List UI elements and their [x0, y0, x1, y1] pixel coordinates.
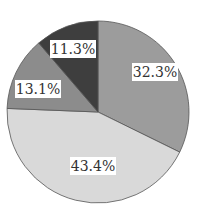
svg-text:43.4%: 43.4% — [71, 158, 115, 174]
slice-label: 11.3% — [50, 40, 96, 58]
slice-label: 43.4% — [70, 157, 116, 175]
pie-slices — [7, 21, 189, 203]
svg-text:32.3%: 32.3% — [133, 64, 177, 80]
svg-text:11.3%: 11.3% — [51, 41, 95, 57]
slice-label: 13.1% — [15, 80, 61, 98]
pie-chart: 32.3%43.4%13.1%11.3% — [0, 0, 197, 214]
svg-text:13.1%: 13.1% — [16, 81, 60, 97]
slice-label: 32.3% — [132, 63, 178, 81]
